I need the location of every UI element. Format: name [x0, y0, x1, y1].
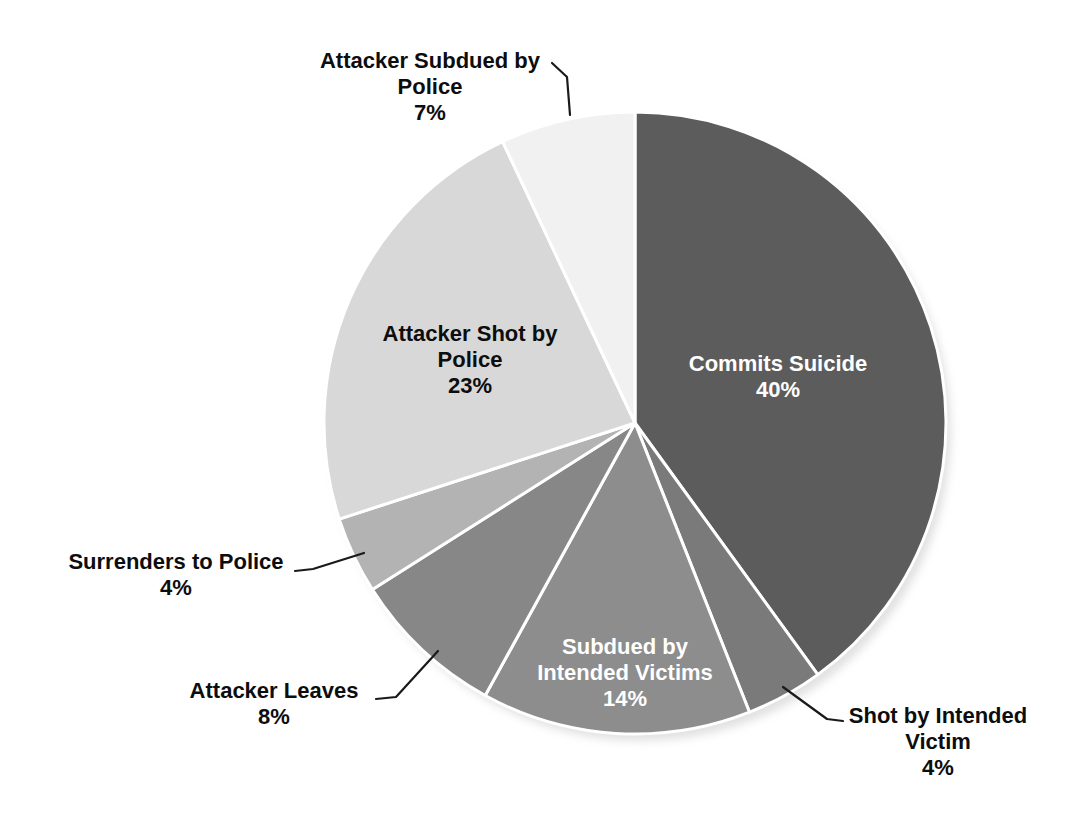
slice-percent: 4%	[838, 755, 1038, 781]
slice-label-shot-by-intended-victim: Shot by Intended Victim 4%	[838, 703, 1038, 781]
slice-label-text: Attacker Leaves	[190, 678, 359, 703]
leader-line-attacker-leaves	[376, 651, 438, 699]
pie-chart-figure: Attacker Subdued by Police 7% Surrenders…	[0, 0, 1091, 829]
slice-label-text: Attacker Subdued by Police	[320, 48, 540, 99]
slice-label-attacker-leaves: Attacker Leaves 8%	[164, 678, 384, 730]
slice-percent: 7%	[305, 100, 555, 126]
slice-label-text: Attacker Shot by Police	[383, 321, 558, 372]
slice-label-text: Surrenders to Police	[68, 549, 283, 574]
slice-percent: 4%	[46, 575, 306, 601]
slice-label-surrenders-to-police: Surrenders to Police 4%	[46, 549, 306, 601]
slice-label-subdued-by-intended-victims: Subdued by Intended Victims 14%	[526, 634, 724, 712]
slice-percent: 40%	[663, 377, 893, 403]
slice-label-text: Commits Suicide	[689, 351, 867, 376]
slice-label-text: Subdued by Intended Victims	[537, 634, 713, 685]
slice-percent: 8%	[164, 704, 384, 730]
slice-label-attacker-subdued-by-police: Attacker Subdued by Police 7%	[305, 48, 555, 126]
slice-label-commits-suicide: Commits Suicide 40%	[663, 351, 893, 403]
slice-label-attacker-shot-by-police: Attacker Shot by Police 23%	[370, 321, 570, 399]
slice-percent: 23%	[370, 373, 570, 399]
slice-label-text: Shot by Intended Victim	[849, 703, 1027, 754]
slice-percent: 14%	[526, 686, 724, 712]
